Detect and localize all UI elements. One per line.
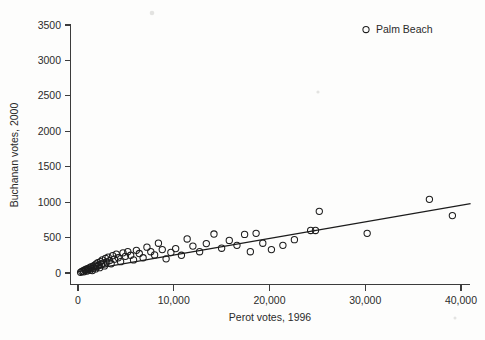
y-tick-label-1500: 1500	[38, 160, 62, 172]
y-tick-label-2500: 2500	[38, 89, 62, 101]
data-point	[291, 237, 297, 243]
y-axis-tick-labels: 0500100015002000250030003500	[38, 19, 62, 279]
x-axis-tick-labels: 010,00020,00030,00040,000	[75, 294, 477, 306]
data-point	[184, 236, 190, 242]
x-tick-label-10000: 10,000	[158, 294, 190, 306]
x-tick-label-20000: 20,000	[253, 294, 285, 306]
y-tick-label-500: 500	[43, 231, 61, 243]
data-point	[203, 240, 209, 246]
data-point-group	[77, 196, 455, 275]
data-point	[241, 231, 247, 237]
legend: Palm Beach	[363, 23, 433, 35]
x-tick-label-0: 0	[75, 294, 81, 306]
data-point	[449, 212, 455, 218]
data-point	[316, 208, 322, 214]
x-axis-ticks	[78, 285, 461, 292]
x-axis-title: Perot votes, 1996	[229, 311, 311, 323]
data-point	[268, 246, 274, 252]
axes	[70, 24, 470, 285]
y-tick-label-3500: 3500	[38, 19, 62, 31]
y-axis-title: Buchanan votes, 2000	[8, 103, 20, 208]
data-point	[253, 230, 259, 236]
y-tick-label-3000: 3000	[38, 54, 62, 66]
x-tick-label-30000: 30,000	[349, 294, 381, 306]
y-tick-label-0: 0	[55, 267, 61, 279]
legend-label-palm-beach: Palm Beach	[376, 23, 433, 35]
scan-artifacts	[150, 11, 457, 320]
scatter-plot-figure: 0500100015002000250030003500 010,00020,0…	[0, 0, 485, 340]
regression-line	[78, 204, 471, 272]
data-point	[196, 249, 202, 255]
data-point	[159, 246, 165, 252]
data-point	[173, 245, 179, 251]
y-axis-ticks	[65, 25, 71, 273]
data-point	[226, 237, 232, 243]
data-point	[190, 243, 196, 249]
data-point	[364, 230, 370, 236]
data-point	[280, 242, 286, 248]
legend-marker-open-circle	[363, 26, 369, 32]
x-tick-label-40000: 40,000	[445, 294, 477, 306]
data-point	[426, 196, 432, 202]
data-point	[155, 240, 161, 246]
data-point	[247, 249, 253, 255]
plot-canvas: 0500100015002000250030003500 010,00020,0…	[0, 0, 485, 340]
y-tick-label-2000: 2000	[38, 125, 62, 137]
y-tick-label-1000: 1000	[38, 196, 62, 208]
data-point	[260, 240, 266, 246]
data-point	[211, 231, 217, 237]
